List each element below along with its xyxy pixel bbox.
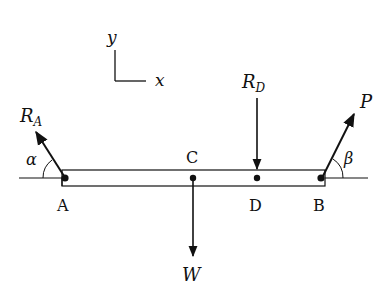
y-axis-label: y (106, 27, 117, 47)
point-A-label: A (56, 196, 69, 215)
alpha-angle-arc (43, 160, 52, 178)
x-axis-label: x (155, 70, 165, 90)
force-label-W: W (182, 264, 202, 285)
force-arrow-RA (36, 132, 64, 176)
point-D-label: D (249, 196, 262, 215)
point-A-dot (61, 174, 68, 181)
point-C-label: C (186, 148, 198, 167)
force-label-P: P (359, 91, 373, 112)
point-C-dot (190, 175, 196, 181)
point-B-label: B (313, 196, 325, 215)
angle-label-alpha: α (26, 150, 37, 169)
beam-free-body-diagram: y x A C D B RA α RD P β W (0, 0, 392, 306)
coordinate-axes: y x (106, 27, 165, 90)
point-D-dot (254, 175, 260, 181)
point-B-dot (317, 174, 324, 181)
beta-angle-arc (333, 159, 343, 178)
force-label-RD: RD (241, 71, 266, 95)
force-label-RA: RA (19, 105, 43, 129)
angle-label-beta: β (343, 149, 353, 168)
